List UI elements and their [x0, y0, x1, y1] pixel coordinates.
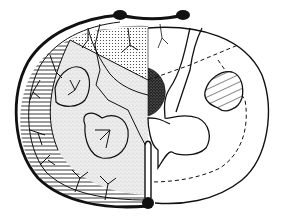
spinal-cord-diagram	[0, 0, 283, 222]
dorsal-horn-right	[176, 28, 202, 112]
diagram-canvas	[0, 0, 283, 222]
lateral-tract	[205, 72, 243, 111]
anterior-spinal-artery	[142, 197, 154, 209]
anterior-median-fissure	[145, 141, 151, 198]
cord-outline-right	[148, 27, 268, 203]
posterior-spinal-artery-right	[176, 10, 190, 20]
posterior-anastomosis	[120, 15, 183, 19]
posterior-spinal-artery-left	[113, 10, 127, 20]
right-half	[148, 24, 268, 204]
